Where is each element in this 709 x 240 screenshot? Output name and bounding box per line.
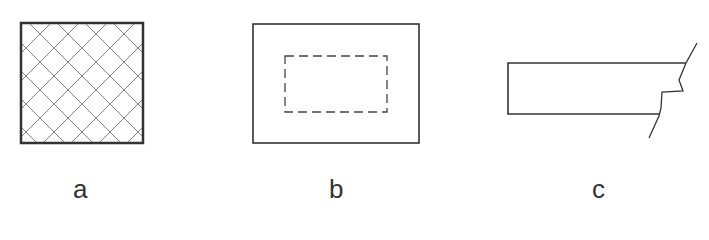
label-b: b [329,176,343,202]
inner-dashed-rectangle [285,56,387,112]
label-a: a [73,176,87,202]
outer-rectangle [253,24,419,143]
figure-b-rectangles [253,24,419,143]
square-outline [21,23,143,143]
bar-outline [508,63,686,114]
label-c: c [592,176,605,202]
figure-c-broken-bar [508,43,697,138]
break-line [649,43,697,138]
